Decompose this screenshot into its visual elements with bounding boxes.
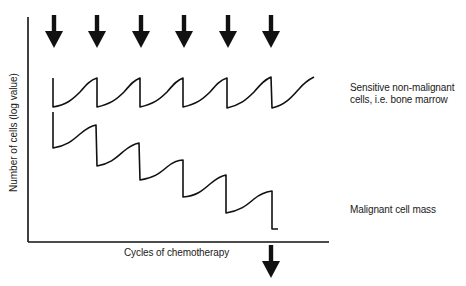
malignant-cells-curve [53,112,278,229]
treatment-arrows [45,15,280,48]
down-arrow-icon [88,15,106,48]
down-arrow-icon [132,15,150,48]
final-cycle-arrow-icon [262,245,280,278]
legend-sensitive-cells: Sensitive non-malignant cells, i.e. bone… [350,82,460,106]
legend-sensitive-line2: cells, i.e. bone marrow [350,94,460,106]
sensitive-cells-curve [53,77,314,108]
legend-sensitive-line1: Sensitive non-malignant [350,82,460,94]
down-arrow-icon [175,15,193,48]
cell-kill-diagram [0,0,466,286]
y-axis-label: Number of cells (log value) [8,73,19,192]
down-arrow-icon [219,15,237,48]
x-axis-label: Cycles of chemotherapy [124,247,229,259]
down-arrow-icon [262,15,280,48]
legend-malignant-cells: Malignant cell mass [350,204,436,216]
down-arrow-icon [45,15,63,48]
